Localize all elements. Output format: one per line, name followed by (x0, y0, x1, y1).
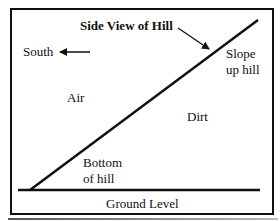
air-label: Air (67, 90, 84, 105)
diagram-lines (0, 0, 280, 221)
slope-label: Slope up hill (226, 46, 260, 78)
bottom-label-line1: Bottom (83, 155, 122, 171)
title-pointer-arrow (178, 28, 209, 49)
slope-label-line1: Slope (226, 46, 260, 62)
bottom-divider (8, 218, 278, 220)
dirt-label: Dirt (187, 109, 208, 124)
south-label: South (23, 44, 53, 59)
bottom-label-line2: of hill (83, 171, 122, 187)
bottom-label: Bottom of hill (83, 155, 122, 187)
diagram-title: Side View of Hill (80, 18, 173, 33)
ground-level-label: Ground Level (106, 196, 179, 211)
hill-slope-line (30, 20, 258, 190)
slope-label-line2: up hill (226, 62, 260, 78)
